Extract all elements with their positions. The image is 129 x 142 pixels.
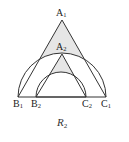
figure-caption: R2 bbox=[57, 116, 67, 130]
label-a2: A2 bbox=[56, 42, 66, 53]
label-b1: B1 bbox=[13, 99, 23, 110]
label-a1: A1 bbox=[56, 8, 66, 19]
label-c1: C1 bbox=[101, 99, 111, 110]
label-c2: C2 bbox=[82, 99, 92, 110]
label-b2: B2 bbox=[31, 99, 41, 110]
